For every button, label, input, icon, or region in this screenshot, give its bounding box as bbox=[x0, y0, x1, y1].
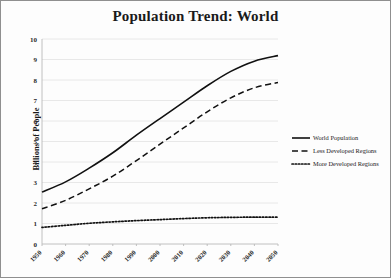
gridlines bbox=[42, 39, 278, 224]
y-tick-label: 9 bbox=[34, 56, 38, 64]
x-tick-label: 1980 bbox=[99, 248, 114, 263]
x-tick-label: 2010 bbox=[170, 248, 185, 263]
x-tick-label: 1990 bbox=[123, 248, 138, 263]
y-tick-label: 4 bbox=[34, 159, 38, 167]
y-axis-tick-labels: 012345678910 bbox=[30, 36, 38, 249]
y-tick-label: 6 bbox=[34, 118, 38, 126]
y-tick-label: 5 bbox=[34, 138, 38, 146]
y-tick-label: 8 bbox=[34, 77, 38, 85]
x-axis-tick-labels: 1950196019701980199020002010202020302040… bbox=[28, 244, 279, 263]
y-tick-label: 7 bbox=[34, 97, 38, 105]
legend-label: More Developed Regions bbox=[313, 160, 379, 167]
chart-legend: World PopulationLess Developed RegionsMo… bbox=[292, 134, 379, 167]
series-line bbox=[42, 217, 278, 227]
x-tick-label: 2020 bbox=[194, 248, 209, 263]
series-line bbox=[42, 82, 278, 208]
legend-label: Less Developed Regions bbox=[313, 147, 377, 154]
chart-container: Population Trend: World Billions of Peop… bbox=[0, 0, 391, 278]
series-line bbox=[42, 56, 278, 193]
y-tick-label: 10 bbox=[30, 36, 38, 44]
x-tick-label: 2050 bbox=[264, 248, 279, 263]
y-tick-label: 2 bbox=[34, 200, 38, 208]
x-tick-label: 2040 bbox=[241, 248, 256, 263]
legend-label: World Population bbox=[313, 134, 359, 141]
y-tick-label: 3 bbox=[34, 179, 38, 187]
x-tick-label: 2030 bbox=[217, 248, 232, 263]
x-tick-label: 2000 bbox=[146, 248, 161, 263]
plot-area: 012345678910 195019601970198019902000201… bbox=[1, 1, 391, 278]
y-tick-label: 1 bbox=[34, 220, 38, 228]
x-tick-label: 1950 bbox=[28, 248, 43, 263]
y-tick-label: 0 bbox=[34, 241, 38, 249]
x-tick-label: 1970 bbox=[76, 248, 91, 263]
x-tick-label: 1960 bbox=[52, 248, 67, 263]
